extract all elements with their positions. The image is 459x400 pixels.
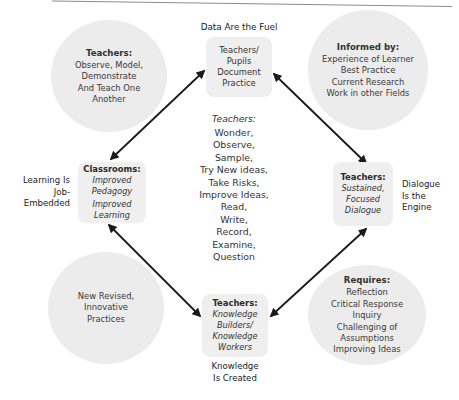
circle-line: Work in other Fields [327,88,410,99]
circle-line: Inquiry [352,310,381,321]
label-line: Knowledge [200,361,270,373]
label-line: Is the [402,191,452,203]
label-line: Learning Is [18,175,70,187]
page-edge-line [0,0,459,10]
list-item: Sample, [188,152,280,164]
circle-heading: Teachers: [86,47,132,59]
circle-new-practices: New Revised, Innovative Practices [48,252,164,364]
circle-line: Innovative [84,302,128,313]
circle-line: Another [92,94,125,105]
circle-line: Assumptions [340,333,394,344]
label-data-fuel: Data Are the Fuel [199,22,279,34]
list-item: Read, [188,201,280,213]
list-item: Write, [188,214,280,226]
circle-informed-by: Informed by: Experience of Learner Best … [308,10,428,130]
box-line: Improved [92,175,131,186]
circle-line: Current Research [332,77,405,88]
circle-line: Observe, Model, [75,60,143,71]
circle-line: Improving Ideas [333,344,400,355]
list-heading: Teachers: [188,112,280,125]
list-item: Wonder, [188,127,280,139]
circle-line: And Teach One [78,83,141,94]
box-line: Sustained, [341,183,384,194]
label-learning-embedded: Learning Is Job- Embedded [18,175,70,210]
circle-line: Challenging of [337,322,397,333]
circle-line: Experience of Learner [322,54,414,65]
label-dialogue-engine: Dialogue Is the Engine [402,179,452,214]
label-line: Engine [402,202,452,214]
box-line: Document [217,67,260,78]
circle-line: Demonstrate [82,71,137,82]
list-item: Examine, [188,239,280,251]
box-line: Dialogue [345,205,381,216]
label-line: Embedded [18,198,70,210]
label-knowledge-created: Knowledge Is Created [200,361,270,384]
circle-line: Critical Response [331,299,403,310]
circle-line: Practices [87,314,125,325]
label-line: Is Created [200,373,270,385]
circle-teachers-observe: Teachers: Observe, Model, Demonstrate An… [51,20,167,132]
circle-line: New Revised, [78,291,134,302]
box-line: Teachers/ [219,45,259,56]
box-classrooms: Classrooms: Improved Pedagogy Improved L… [78,162,146,223]
box-line: Pedagogy [92,186,132,197]
box-line: Practice [222,78,255,89]
box-line: Pupils [227,56,252,67]
label-line: Dialogue [402,179,452,191]
box-line: Knowledge [212,331,257,342]
box-sustained-dialogue: Teachers: Sustained, Focused Dialogue [333,162,393,226]
list-item: Observe, [188,139,280,151]
list-item: Take Risks, [188,177,280,189]
box-heading: Teachers: [340,172,385,183]
box-heading: Classrooms: [83,164,140,175]
circle-line: Reflection [346,287,388,298]
box-document-practice: Teachers/ Pupils Document Practice [206,37,272,97]
circle-heading: Informed by: [337,41,399,53]
box-line: Knowledge [212,309,257,320]
circle-line: Best Practice [341,65,396,76]
list-item: Improve Ideas, [188,189,280,201]
list-item: Record, [188,226,280,238]
list-item: Question [188,251,280,263]
list-item: Try New ideas, [188,164,280,176]
diagram-canvas: Teachers: Observe, Model, Demonstrate An… [0,0,459,400]
box-line: Learning [94,210,130,221]
circle-heading: Requires: [344,274,390,286]
box-line: Workers [218,342,252,353]
teachers-activities-list: Teachers: Wonder, Observe, Sample, Try N… [188,112,280,263]
box-knowledge-builders: Teachers: Knowledge Builders/ Knowledge … [202,294,268,357]
box-line: Improved [92,199,131,210]
circle-requires: Requires: Reflection Critical Response I… [308,265,426,365]
box-line: Builders/ [217,320,253,331]
box-heading: Teachers: [212,298,257,309]
label-line: Job- [18,187,70,199]
box-line: Focused [346,194,380,205]
